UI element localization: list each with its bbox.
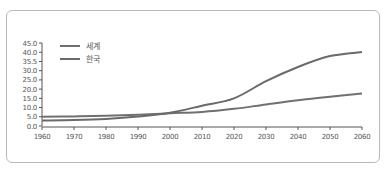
x-tick-label: 2030 [258, 133, 275, 141]
x-tick-label: 1980 [98, 133, 115, 141]
y-tick-label: 20.0 [23, 86, 37, 94]
y-tick-label: 30.0 [23, 67, 37, 75]
legend-label-korea: 한국 [86, 55, 100, 64]
x-tick-label: 2040 [290, 133, 307, 141]
x-tick-label: 2050 [322, 133, 339, 141]
y-tick-label: 35.5 [23, 58, 37, 66]
x-tick-label: 1960 [34, 133, 51, 141]
y-tick-label: 25.0 [23, 76, 37, 84]
x-axis: 1960197019801990200020102020203020402050… [34, 127, 371, 141]
y-tick-label: 45.0 [23, 40, 37, 48]
x-tick-label: 2000 [162, 133, 179, 141]
x-tick-label: 2060 [354, 133, 371, 141]
x-tick-label: 2010 [194, 133, 211, 141]
x-tick-label: 1990 [130, 133, 147, 141]
legend-label-world: 세계 [86, 41, 100, 51]
x-tick-label: 2020 [226, 133, 243, 141]
line-chart: 45.040.035.530.025.020.015.010.05.00.0 1… [0, 0, 386, 171]
y-tick-label: 0.0 [27, 123, 37, 131]
y-tick-label: 15.0 [23, 95, 37, 103]
legend: 세계 한국 [60, 41, 100, 64]
x-tick-label: 1970 [66, 133, 83, 141]
y-tick-label: 40.0 [23, 49, 37, 57]
y-axis: 45.040.035.530.025.020.015.010.05.00.0 [23, 40, 42, 131]
y-tick-label: 5.0 [27, 113, 37, 121]
y-tick-label: 10.0 [23, 104, 37, 112]
